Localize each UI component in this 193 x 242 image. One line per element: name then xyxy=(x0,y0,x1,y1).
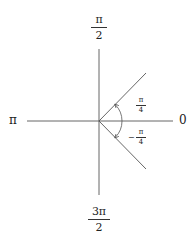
label-pi-over-2-den: 2 xyxy=(91,30,107,41)
fraction-bar xyxy=(88,219,110,220)
arc-positive-angle xyxy=(115,105,122,121)
label-pi-over-2: π 2 xyxy=(91,14,107,41)
label-angle-pi-over-4-den: 4 xyxy=(136,107,146,114)
label-3pi-over-2-num: 3π xyxy=(88,206,110,217)
label-angle-neg-sign: − xyxy=(128,134,135,142)
label-angle-neg-pi-over-4-den: 4 xyxy=(136,139,146,146)
label-3pi-over-2-den: 2 xyxy=(88,222,110,233)
label-pi-over-2-num: π xyxy=(91,14,107,25)
label-3pi-over-2: 3π 2 xyxy=(88,206,110,233)
label-angle-pi-over-4: π 4 xyxy=(136,97,146,114)
label-angle-neg-pi-over-4-num: π xyxy=(136,129,146,136)
label-pi: π xyxy=(9,114,17,126)
label-angle-neg-pi-over-4: π 4 xyxy=(136,129,146,146)
label-zero: 0 xyxy=(179,114,187,126)
arc-negative-angle xyxy=(115,121,122,137)
fraction-bar xyxy=(91,27,107,28)
label-angle-pi-over-4-num: π xyxy=(136,97,146,104)
